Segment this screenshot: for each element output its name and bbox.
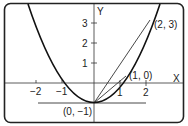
y-tick-label: 3 — [82, 18, 88, 29]
chart: −2 −1 1 2 3 2 1 Y X (2, 3) (1, 0) (0, −1… — [0, 0, 188, 126]
x-tick-label: 2 — [143, 87, 149, 98]
point-label-0-neg1: (0, −1) — [63, 106, 92, 117]
y-tick-label: 1 — [82, 58, 88, 69]
y-axis-label: Y — [97, 6, 104, 17]
x-tick-label: −1 — [56, 86, 68, 97]
x-axis-label: X — [173, 73, 180, 84]
point-label-1-0: (1, 0) — [129, 70, 152, 81]
x-tick-label: 1 — [117, 87, 123, 98]
x-tick-label: −2 — [30, 86, 42, 97]
y-tick-label: 2 — [82, 38, 88, 49]
point-label-2-3: (2, 3) — [154, 19, 177, 30]
